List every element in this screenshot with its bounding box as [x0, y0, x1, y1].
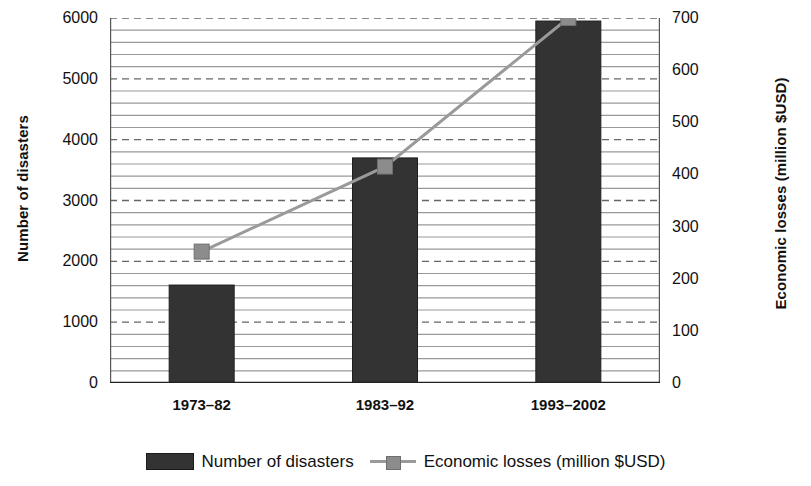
plot-svg	[110, 18, 660, 383]
y-axis-left-ticks: 0100020003000400050006000	[18, 18, 98, 383]
legend-entry-1: Number of disasters	[146, 453, 354, 470]
y-axis-right-tick-200: 200	[672, 271, 752, 287]
y-axis-left-tick-6000: 6000	[18, 10, 98, 26]
legend-entry-2: Economic losses (million $USD)	[370, 453, 666, 470]
y-axis-right-tick-400: 400	[672, 166, 752, 182]
x-axis-category-labels: 1973–821983–921993–2002	[110, 396, 660, 420]
y-axis-right-tick-500: 500	[672, 114, 752, 130]
bar-swatch-icon	[146, 453, 194, 470]
plot-area	[110, 18, 660, 383]
y-axis-right-tick-300: 300	[672, 219, 752, 235]
y-axis-right-tick-0: 0	[672, 375, 752, 391]
y-axis-left-tick-4000: 4000	[18, 132, 98, 148]
y-axis-left-tick-3000: 3000	[18, 193, 98, 209]
legend-square-marker-icon	[386, 456, 401, 470]
y-axis-left-tick-0: 0	[18, 375, 98, 391]
y-axis-right-tick-100: 100	[672, 323, 752, 339]
legend-label-2: Economic losses (million $USD)	[424, 453, 666, 470]
y-axis-left-tick-2000: 2000	[18, 253, 98, 269]
y-axis-right-tick-600: 600	[672, 62, 752, 78]
bar-1	[169, 285, 234, 383]
legend-label-1: Number of disasters	[202, 453, 354, 470]
bar-3	[536, 21, 601, 383]
y-axis-left-tick-5000: 5000	[18, 71, 98, 87]
line-marker-1	[194, 244, 209, 259]
bar-2	[353, 158, 418, 383]
y-axis-left-tick-1000: 1000	[18, 314, 98, 330]
line-marker-icon	[370, 454, 416, 469]
x-axis-category-1: 1973–82	[110, 396, 293, 413]
x-axis-category-2: 1983–92	[293, 396, 476, 413]
line-marker-2	[378, 159, 393, 174]
y-axis-right-ticks: 0100200300400500600700	[672, 18, 752, 383]
y-axis-right-tick-700: 700	[672, 10, 752, 26]
line-marker-3	[561, 18, 576, 26]
chart-legend: Number of disastersEconomic losses (mill…	[0, 446, 811, 476]
x-axis-category-3: 1993–2002	[477, 396, 660, 413]
y-axis-right-title: Economic losses (million $USD)	[772, 44, 789, 344]
chart-figure: Number of disasters Economic losses (mil…	[0, 0, 811, 486]
